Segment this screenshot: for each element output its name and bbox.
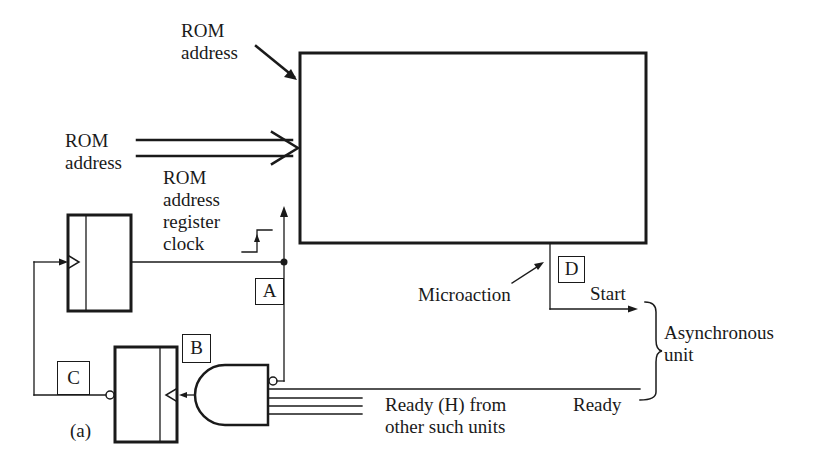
and-gate-icon [195,365,268,425]
rom-address-left-label: ROM address [65,130,122,174]
clock-triangle-icon [69,256,79,268]
curly-brace-icon [640,302,662,400]
ready-h-label: Ready (H) from other such units [385,394,506,438]
figure-label: (a) [70,420,91,442]
start-label: Start [590,283,626,305]
test-point-d: D [558,256,585,283]
bus-arrow-icon [137,132,298,164]
microaction-label: Microaction [418,284,511,306]
inversion-bubble-icon [106,391,114,399]
diagonal-arrow-icon [256,46,297,80]
arrow-right-icon [628,306,638,313]
test-point-b: B [182,334,211,363]
arrow-left-icon [179,392,187,398]
rom-address-register-clock-label: ROM address register clock [163,167,220,255]
rom-address-top-label: ROM address [181,20,238,64]
rom-block [300,53,646,243]
clock-triangle-icon [166,389,176,401]
microaction-pointer-icon [512,262,544,283]
inversion-bubble-icon [269,377,277,385]
asynchronous-unit-label: Asynchronous unit [664,322,774,366]
diagram-canvas: ROM address ROM address ROM address regi… [0,0,825,470]
test-point-a: A [255,278,284,305]
ready-label: Ready [573,394,622,416]
rising-edge-icon [242,230,272,252]
arrow-up-icon [280,206,288,217]
test-point-c: C [57,361,90,395]
